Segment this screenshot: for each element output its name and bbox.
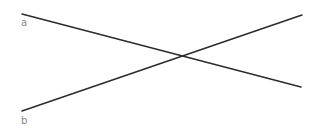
line-diagram: a b xyxy=(0,0,318,137)
line-b-label: b xyxy=(21,116,27,126)
line-a xyxy=(22,14,301,87)
line-b xyxy=(22,15,302,111)
line-a-label: a xyxy=(21,18,27,28)
lines-layer xyxy=(0,0,318,137)
